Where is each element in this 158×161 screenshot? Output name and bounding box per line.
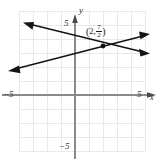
grid-lines: [19, 11, 145, 151]
fraction-numerator: 7: [96, 24, 102, 31]
coordinate-graph-figure: −5 5 5 −5 x y ( 2, 7 2 ): [0, 0, 158, 161]
point-label-close-paren: ): [102, 27, 105, 37]
point-label-fraction: 7 2: [96, 24, 102, 39]
line-negative-slope-arrow-right: [139, 49, 150, 57]
fraction-denominator: 2: [96, 32, 102, 39]
line-positive-slope-segment: [15, 36, 143, 69]
x-axis-name-label: x: [150, 94, 154, 102]
line-positive-slope-arrow-right: [139, 32, 150, 40]
intersection-point-label: ( 2, 7 2 ): [86, 24, 106, 39]
x-axis-tick-label-positive-five: 5: [137, 90, 142, 99]
axes: [2, 22, 150, 159]
point-label-x-value: 2,: [89, 27, 95, 36]
x-axis-tick-label-negative-five: −5: [3, 90, 14, 99]
line-positive-slope-arrow-left: [8, 66, 21, 74]
y-axis-arrowhead: [72, 14, 78, 23]
line-positive-slope: [15, 36, 143, 69]
line-negative-slope-arrow-left: [23, 22, 34, 30]
y-axis-tick-label-positive-five: 5: [64, 19, 69, 28]
graph-canvas: [0, 0, 158, 161]
intersection-point-dot: [101, 44, 106, 49]
y-axis-name-label: y: [79, 6, 83, 15]
y-axis-tick-label-negative-five: −5: [59, 142, 70, 151]
